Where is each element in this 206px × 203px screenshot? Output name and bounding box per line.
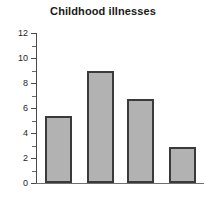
y-tick-label: 12 — [8, 29, 28, 38]
y-tick-label: 8 — [8, 79, 28, 88]
y-tick-minor — [32, 146, 36, 147]
y-tick-major — [31, 183, 36, 184]
y-tick-label: 0 — [8, 179, 28, 188]
bar-2 — [87, 71, 114, 184]
y-tick-major — [31, 83, 36, 84]
plot-area: 12 10 8 6 4 2 0 — [0, 0, 206, 203]
y-tick-major — [31, 108, 36, 109]
y-tick-label: 6 — [8, 104, 28, 113]
y-tick-minor — [32, 96, 36, 97]
y-tick-minor — [32, 171, 36, 172]
y-tick-major — [31, 58, 36, 59]
y-tick-label: 10 — [8, 54, 28, 63]
y-tick-minor — [32, 46, 36, 47]
bar-1 — [45, 116, 72, 184]
chart-figure: Childhood illnesses 12 10 8 6 4 2 0 — [0, 0, 206, 203]
y-tick-minor — [32, 71, 36, 72]
y-tick-minor — [32, 121, 36, 122]
y-tick-label: 4 — [8, 129, 28, 138]
bar-4 — [169, 147, 196, 183]
y-axis-line — [36, 33, 37, 184]
y-tick-major — [31, 33, 36, 34]
x-axis-line — [36, 183, 204, 184]
y-tick-label: 2 — [8, 154, 28, 163]
y-tick-major — [31, 158, 36, 159]
y-tick-major — [31, 133, 36, 134]
bar-3 — [127, 99, 154, 183]
